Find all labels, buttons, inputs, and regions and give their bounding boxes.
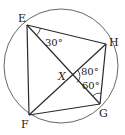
segment-FE bbox=[27, 25, 29, 115]
geometry-diagram: E H G F X 30° 80° 60° bbox=[0, 0, 125, 135]
point-label-H: H bbox=[109, 36, 119, 49]
angle-arc-X bbox=[77, 70, 80, 83]
segment-HG bbox=[100, 44, 106, 104]
point-label-E: E bbox=[18, 12, 26, 25]
segment-EH bbox=[27, 25, 106, 44]
point-label-F: F bbox=[21, 118, 29, 131]
angle-arc-E bbox=[37, 28, 41, 35]
angle-label-E: 30° bbox=[45, 37, 63, 48]
diagonal-EG bbox=[27, 25, 100, 104]
angle-arc-G bbox=[93, 93, 102, 96]
angle-label-G: 60° bbox=[82, 80, 100, 91]
point-label-X: X bbox=[57, 70, 67, 83]
angle-label-X: 80° bbox=[81, 66, 99, 77]
point-label-G: G bbox=[99, 107, 108, 120]
circumcircle bbox=[4, 9, 118, 123]
